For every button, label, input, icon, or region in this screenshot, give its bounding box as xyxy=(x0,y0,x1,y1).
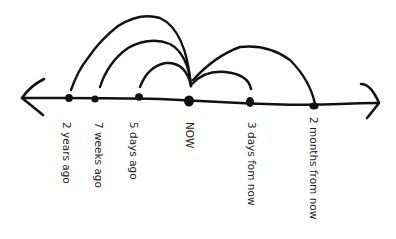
timeline-axis xyxy=(22,98,378,105)
point-now xyxy=(184,96,194,107)
label-5-days-ago: 5 days ago xyxy=(129,122,140,180)
point-2-years-ago xyxy=(65,94,73,102)
arc-now-to-3-days-from-now xyxy=(192,72,251,89)
point-2-months-from-now xyxy=(310,103,319,110)
point-3-days-from-now xyxy=(246,97,254,107)
label-now: NOW xyxy=(185,122,196,149)
right-arrowhead-icon xyxy=(361,84,379,118)
point-7-weeks-ago xyxy=(91,95,98,102)
label-2-years-ago: 2 years ago xyxy=(62,122,73,184)
label-7-weeks-ago: 7 weeks ago xyxy=(94,122,105,188)
label-2-months-from-now: 2 months from now xyxy=(309,117,320,219)
arc-now-to-5-days-ago xyxy=(140,63,191,87)
label-3-days-from-now: 3 days fom now xyxy=(247,122,258,206)
timeline-diagram xyxy=(0,0,396,239)
arc-now-to-2-years-ago xyxy=(71,16,191,90)
point-5-days-ago xyxy=(135,93,143,101)
arc-now-to-2-months-from-now xyxy=(193,47,315,104)
